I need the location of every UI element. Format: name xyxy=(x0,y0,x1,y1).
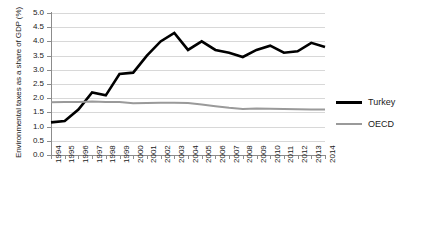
x-axis-tick xyxy=(243,155,244,159)
x-axis-tick xyxy=(202,155,203,159)
y-axis-tick-labels: 0.00.51.01.52.02.53.03.54.04.55.0 xyxy=(12,0,44,231)
chart-container: Environmental taxes as a share of GDP (%… xyxy=(0,0,429,231)
legend-label: OECD xyxy=(368,119,394,129)
y-axis-tick-label: 2.0 xyxy=(18,94,44,102)
y-axis-tick-label: 2.5 xyxy=(18,80,44,88)
y-axis-tick-label: 3.0 xyxy=(18,66,44,74)
x-axis-tick xyxy=(133,155,134,159)
x-axis-tick xyxy=(120,155,121,159)
y-axis-tick-label: 0.0 xyxy=(18,151,44,159)
y-axis-tick-label: 0.5 xyxy=(18,137,44,145)
y-axis-tick-label: 4.5 xyxy=(18,23,44,31)
y-axis-tick-label: 3.5 xyxy=(18,52,44,60)
legend-swatch-icon xyxy=(336,123,362,125)
legend-swatch-icon xyxy=(336,101,362,104)
y-axis-tick-label: 1.5 xyxy=(18,108,44,116)
series-line-oecd xyxy=(51,102,325,110)
legend-label: Turkey xyxy=(368,97,395,107)
x-axis-tick xyxy=(188,155,189,159)
x-axis-tick xyxy=(161,155,162,159)
x-axis-tick-label: 2014 xyxy=(329,145,337,163)
x-axis-tick xyxy=(298,155,299,159)
y-axis-tick-label: 5.0 xyxy=(18,9,44,17)
x-axis-tick xyxy=(257,155,258,159)
x-axis-tick xyxy=(284,155,285,159)
y-axis-tick-label: 4.0 xyxy=(18,37,44,45)
series-lines xyxy=(51,13,325,155)
chart-legend: TurkeyOECD xyxy=(336,97,428,141)
x-axis-tick xyxy=(78,155,79,159)
legend-item-oecd[interactable]: OECD xyxy=(336,119,428,129)
x-axis-tick xyxy=(147,155,148,159)
y-axis-tick-label: 1.0 xyxy=(18,123,44,131)
legend-item-turkey[interactable]: Turkey xyxy=(336,97,428,107)
x-axis-tick xyxy=(51,155,52,159)
x-axis-tick xyxy=(65,155,66,159)
x-axis-tick xyxy=(215,155,216,159)
x-axis-tick xyxy=(270,155,271,159)
x-axis-tick xyxy=(229,155,230,159)
x-axis-tick xyxy=(106,155,107,159)
x-axis-tick xyxy=(92,155,93,159)
x-axis-tick xyxy=(325,155,326,159)
x-axis-tick xyxy=(311,155,312,159)
x-axis-tick xyxy=(174,155,175,159)
